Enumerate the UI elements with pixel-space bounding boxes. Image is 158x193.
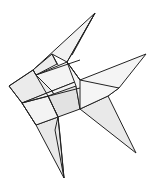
bottom-fin [36,117,64,178]
origami-fish-figure: origami fish line drawing [0,0,158,193]
dorsal-fin [33,13,95,70]
origami-fish-drawing [0,0,158,193]
